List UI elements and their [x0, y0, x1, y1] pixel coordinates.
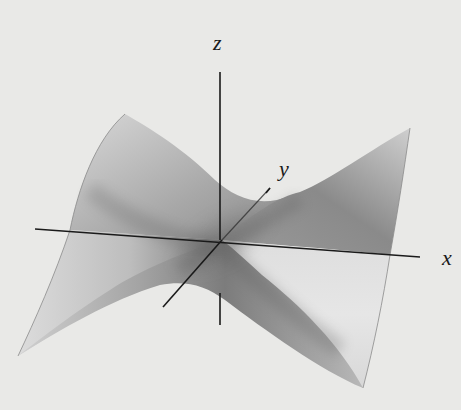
y-axis-label: y	[277, 156, 289, 181]
x-axis-label: x	[441, 245, 452, 270]
y-axis-tip	[266, 188, 270, 193]
z-axis-label: z	[212, 30, 222, 55]
saddle-surface-figure: z y x	[0, 0, 461, 410]
